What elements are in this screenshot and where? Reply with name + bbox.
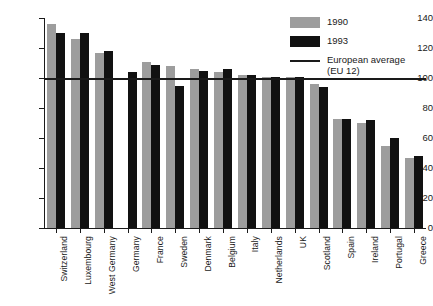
x-axis-tick [271,229,272,233]
bar-1993 [295,77,304,229]
legend-item-1990: 1990 [290,16,430,28]
x-axis-label: Belgium [227,236,237,268]
bar-1990 [190,69,199,228]
bar-1993 [414,156,423,228]
x-axis-label: Scotland [322,236,332,270]
legend-label-european-average-sub: (EU 12) [327,65,405,77]
x-axis-tick [80,229,81,233]
bar-1993 [199,71,208,229]
x-axis-line [44,228,426,229]
x-axis-tick [56,229,57,233]
x-axis-label: Germany [131,236,141,272]
bar-group [71,18,89,228]
bar-1990 [286,77,295,229]
x-axis-label: Luxembourg [83,236,93,285]
legend-label-european-average-main: European average [327,54,405,65]
x-axis-label: Sweden [179,236,189,268]
x-axis-label: Spain [346,236,356,258]
x-axis-label: Ireland [370,236,380,263]
x-axis-tick [295,229,296,233]
x-axis-tick [366,229,367,233]
bar-1990 [357,123,366,228]
x-axis-label: Portugal [394,236,404,269]
bar-1990 [214,72,223,228]
x-axis-tick [414,229,415,233]
bar-chart: 020406080100120140 SwitzerlandLuxembourg… [0,0,433,306]
x-axis-tick [151,229,152,233]
bar-1990 [310,84,319,228]
bar-1990 [142,62,151,229]
bar-group [214,18,232,228]
bar-1990 [262,77,271,229]
x-axis-tick [319,229,320,233]
legend-item-european-average: European average (EU 12) [290,54,430,77]
bar-group [238,18,256,228]
bar-1990 [47,24,56,228]
bar-1993 [319,87,328,228]
x-axis-tick [128,229,129,233]
legend-swatch-1990-icon [290,17,320,28]
bar-group [190,18,208,228]
bar-1993 [175,86,184,229]
x-axis-tick [390,229,391,233]
bar-1993 [342,119,351,229]
x-axis-label: Italy [250,236,260,252]
bar-group [119,18,137,228]
x-axis-tick [247,229,248,233]
x-axis-label: Switzerland [59,236,69,282]
x-axis-label: UK [298,236,308,248]
bar-1990 [333,119,342,229]
x-axis-tick [175,229,176,233]
x-axis-label: Netherlands [274,236,284,283]
bar-1993 [56,33,65,228]
bar-1993 [223,69,232,228]
bar-1990 [238,75,247,228]
x-axis-tick [104,229,105,233]
legend-swatch-1993-icon [290,36,320,47]
x-axis-label: Greece [418,236,428,265]
bar-1990 [381,146,390,229]
legend-label-1990: 1990 [327,16,348,27]
bar-1993 [366,120,375,228]
x-axis-label: West Germany [107,236,117,294]
legend-swatch-line-icon [290,55,320,66]
legend: 1990 1993 European average (EU 12) [290,16,430,84]
bar-group [142,18,160,228]
bar-1990 [71,39,80,228]
x-axis-label: Denmark [203,236,213,272]
legend-item-1993: 1993 [290,35,430,47]
bar-1993 [271,77,280,229]
x-axis-label: France [155,236,165,263]
bar-group [166,18,184,228]
bar-1993 [390,138,399,228]
bar-group [95,18,113,228]
bar-1990 [405,158,414,229]
bar-1990 [166,66,175,228]
x-axis-tick [199,229,200,233]
bar-1993 [247,75,256,228]
bar-1993 [128,72,137,228]
bar-1993 [80,33,89,228]
bar-1993 [151,65,160,229]
legend-label-1993: 1993 [327,35,348,46]
bar-group [262,18,280,228]
legend-label-european-average: European average (EU 12) [327,54,405,77]
x-axis-tick [223,229,224,233]
x-axis-tick [342,229,343,233]
bar-group [47,18,65,228]
